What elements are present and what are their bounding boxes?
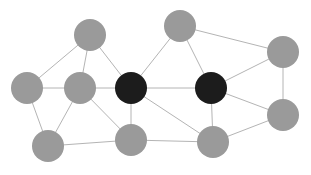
graph-canvas (0, 0, 311, 175)
network-graph-figure (0, 0, 311, 175)
graph-node[interactable] (197, 126, 229, 158)
graph-node[interactable] (267, 36, 299, 68)
graph-node[interactable] (64, 72, 96, 104)
graph-node[interactable] (164, 10, 196, 42)
graph-node[interactable] (267, 99, 299, 131)
graph-node[interactable] (32, 130, 64, 162)
graph-node[interactable] (11, 72, 43, 104)
graph-node[interactable] (74, 19, 106, 51)
graph-node[interactable] (115, 124, 147, 156)
graph-node-highlighted[interactable] (115, 72, 147, 104)
graph-node-highlighted[interactable] (195, 72, 227, 104)
